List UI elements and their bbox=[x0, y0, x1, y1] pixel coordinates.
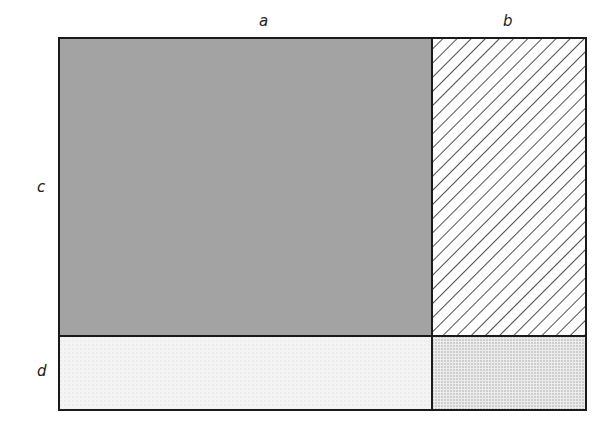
region-ac bbox=[59, 38, 432, 336]
region-bd bbox=[432, 336, 586, 410]
region-bc bbox=[432, 38, 586, 336]
region-ad bbox=[59, 336, 432, 410]
area-diagram bbox=[0, 0, 616, 434]
